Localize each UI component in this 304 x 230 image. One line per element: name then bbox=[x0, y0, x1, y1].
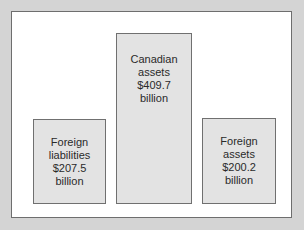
diagram-frame: Foreign liabilities $207.5 billion Canad… bbox=[11, 11, 292, 218]
foreign-assets-box: Foreign assets $200.2 billion bbox=[202, 118, 276, 204]
box-label: liabilities bbox=[49, 149, 91, 162]
box-label: Foreign bbox=[220, 135, 257, 148]
box-value: $409.7 bbox=[137, 79, 171, 92]
box-unit: billion bbox=[55, 175, 83, 188]
box-label: assets bbox=[138, 66, 170, 79]
box-unit: billion bbox=[140, 92, 168, 105]
box-label: Canadian bbox=[130, 53, 177, 66]
box-unit: billion bbox=[225, 174, 253, 187]
box-label: Foreign bbox=[51, 136, 88, 149]
box-label: assets bbox=[223, 148, 255, 161]
foreign-liabilities-box: Foreign liabilities $207.5 billion bbox=[33, 119, 106, 204]
canadian-assets-box: Canadian assets $409.7 billion bbox=[116, 33, 192, 204]
box-value: $200.2 bbox=[222, 161, 256, 174]
box-value: $207.5 bbox=[53, 162, 87, 175]
